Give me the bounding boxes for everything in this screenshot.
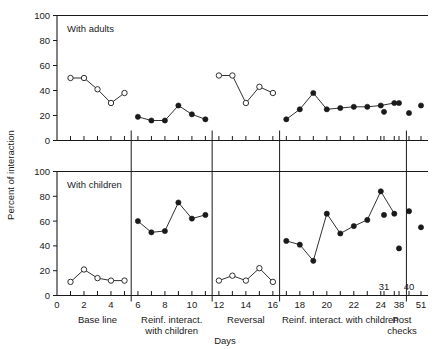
data-point-adults-day-6 <box>135 114 140 119</box>
x-tick-label-day-4: 4 <box>108 299 113 310</box>
data-point-children-day-5 <box>122 278 127 283</box>
phase-label-reinf-interact-with-children-1: Reinf. interact. <box>141 314 202 325</box>
x-axis-title: Days <box>214 335 236 346</box>
data-point-adults-day-3 <box>95 87 100 92</box>
data-point-adults-day-23 <box>365 104 370 109</box>
data-point-children-day-38 <box>396 246 401 251</box>
y-tick-label-children-80: 80 <box>39 191 50 202</box>
data-point-adults-day-40 <box>406 110 411 115</box>
data-point-adults-day-16 <box>270 90 275 95</box>
data-point-adults-day-22 <box>351 104 356 109</box>
data-point-children-day-10 <box>189 216 194 221</box>
y-tick-label-adults-0: 0 <box>45 135 50 146</box>
y-tick-label-adults-80: 80 <box>39 35 50 46</box>
data-point-children-day-40 <box>406 209 411 214</box>
data-point-children-day-25 <box>392 211 397 216</box>
series-line-adults-reversal <box>219 76 273 104</box>
series-line-children-reinf-interact-with-children <box>138 203 206 233</box>
data-point-adults-day-21 <box>338 105 343 110</box>
data-point-adults-day-12 <box>216 73 221 78</box>
y-tick-label-children-60: 60 <box>39 216 50 227</box>
y-tick-label-adults-40: 40 <box>39 85 50 96</box>
data-point-adults-day-15 <box>257 84 262 89</box>
x-tick-label-day-40: 40 <box>404 281 415 292</box>
y-tick-label-adults-100: 100 <box>34 10 50 21</box>
phase-label2-post-checks: checks <box>387 325 417 336</box>
data-point-children-day-6 <box>135 219 140 224</box>
data-point-children-day-31 <box>381 212 386 217</box>
x-tick-label-day-16: 16 <box>268 299 279 310</box>
data-point-adults-day-11 <box>203 117 208 122</box>
x-tick-label-day-12: 12 <box>214 299 225 310</box>
x-tick-label-day-14: 14 <box>241 299 252 310</box>
data-point-adults-day-9 <box>176 103 181 108</box>
x-tick-label-day-31: 31 <box>379 281 390 292</box>
series-line-children-reinf-interact-with-children-2 <box>286 191 394 260</box>
data-point-adults-day-19 <box>311 90 316 95</box>
data-point-children-day-3 <box>95 275 100 280</box>
data-point-children-day-4 <box>108 278 113 283</box>
data-point-adults-day-13 <box>230 73 235 78</box>
data-point-children-day-11 <box>203 212 208 217</box>
data-point-children-day-1 <box>68 279 73 284</box>
data-point-children-day-16 <box>270 279 275 284</box>
phase-label-base-line: Base line <box>78 314 117 325</box>
data-point-children-day-12 <box>216 278 221 283</box>
data-point-children-day-20 <box>324 211 329 216</box>
data-point-children-day-22 <box>351 224 356 229</box>
data-point-adults-day-51 <box>418 103 423 108</box>
data-point-children-day-23 <box>365 217 370 222</box>
x-tick-label-day-6: 6 <box>135 299 140 310</box>
phase-label-post-checks: Post <box>392 314 411 325</box>
x-tick-label-day-0: 0 <box>54 299 59 310</box>
data-point-children-day-14 <box>243 278 248 283</box>
x-tick-label-day-2: 2 <box>81 299 86 310</box>
data-point-children-day-19 <box>311 258 316 263</box>
data-point-adults-day-5 <box>122 90 127 95</box>
data-point-adults-day-2 <box>81 75 86 80</box>
data-point-children-day-17 <box>284 238 289 243</box>
data-point-children-day-9 <box>176 200 181 205</box>
data-point-adults-day-17 <box>284 117 289 122</box>
data-point-children-day-24 <box>378 189 383 194</box>
data-point-adults-day-14 <box>243 100 248 105</box>
data-point-children-day-51 <box>418 225 423 230</box>
data-point-children-day-7 <box>149 230 154 235</box>
phase-label2-reinf-interact-with-children-1: with children <box>144 325 198 336</box>
x-tick-label-day-22: 22 <box>349 299 360 310</box>
data-point-adults-day-4 <box>108 100 113 105</box>
data-point-children-day-8 <box>162 228 167 233</box>
y-tick-label-children-40: 40 <box>39 240 50 251</box>
y-tick-label-children-0: 0 <box>45 290 50 301</box>
series-line-adults-reinf-interact-with-children <box>138 106 206 121</box>
data-point-adults-day-7 <box>149 118 154 123</box>
phase-label-reversal: Reversal <box>227 314 265 325</box>
y-axis-title: Percent of interaction <box>5 130 16 220</box>
x-tick-label-day-20: 20 <box>322 299 333 310</box>
x-tick-label-day-38: 38 <box>394 299 405 310</box>
interaction-percent-chart: 0020204040606080801001000246810121416182… <box>0 0 435 349</box>
data-point-adults-day-24 <box>378 103 383 108</box>
data-point-adults-day-18 <box>297 107 302 112</box>
x-tick-label-day-8: 8 <box>162 299 167 310</box>
data-point-children-day-13 <box>230 273 235 278</box>
y-tick-label-adults-20: 20 <box>39 110 50 121</box>
data-point-children-day-15 <box>257 266 262 271</box>
data-point-children-day-21 <box>338 231 343 236</box>
data-point-adults-day-8 <box>162 118 167 123</box>
x-tick-label-day-51: 51 <box>416 299 427 310</box>
data-point-adults-day-31 <box>381 109 386 114</box>
phase-label-reinf-interact-with-children-2: Reinf. interact. with children <box>282 314 399 325</box>
data-point-children-day-2 <box>81 267 86 272</box>
data-point-adults-day-38 <box>396 100 401 105</box>
x-tick-label-day-10: 10 <box>187 299 198 310</box>
data-point-adults-day-20 <box>324 107 329 112</box>
x-tick-label-day-18: 18 <box>295 299 306 310</box>
y-tick-label-children-100: 100 <box>34 166 50 177</box>
panel-title-children: With children <box>67 179 122 190</box>
figure-container: 0020204040606080801001000246810121416182… <box>0 0 435 349</box>
data-point-adults-day-1 <box>68 75 73 80</box>
y-tick-label-adults-60: 60 <box>39 60 50 71</box>
y-tick-label-children-20: 20 <box>39 265 50 276</box>
panel-title-adults: With adults <box>67 23 114 34</box>
